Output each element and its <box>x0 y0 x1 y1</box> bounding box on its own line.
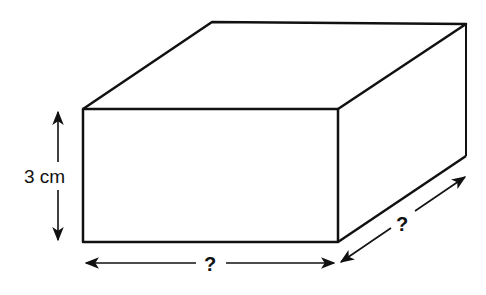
height-label: 3 cm <box>24 166 65 187</box>
cuboid-diagram: 3 cm ? ? <box>0 0 486 295</box>
front-face <box>83 109 338 242</box>
top-face-edges <box>83 22 466 109</box>
depth-label: ? <box>396 213 408 235</box>
length-label: ? <box>204 253 216 275</box>
cuboid-outline <box>83 22 466 242</box>
